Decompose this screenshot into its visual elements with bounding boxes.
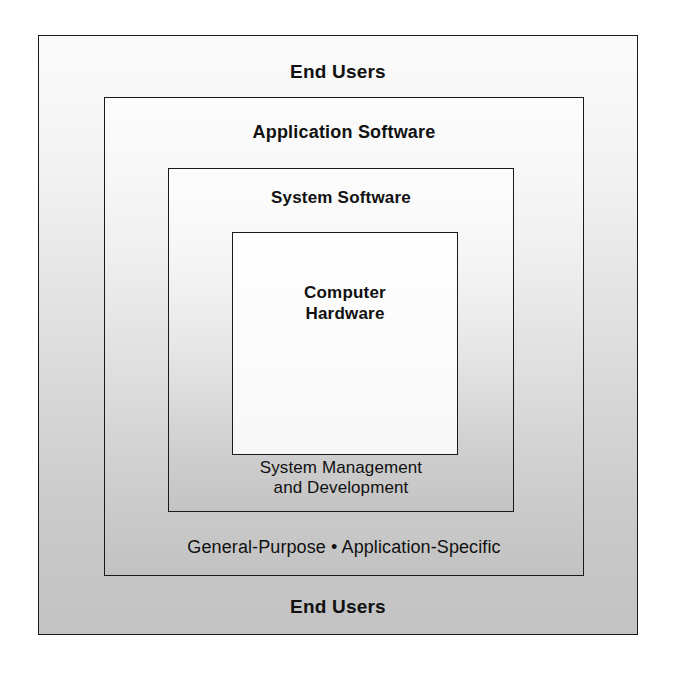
layer-system-software: System Software Computer Hardware System…	[168, 168, 514, 512]
layer-end-users: End Users Application Software System So…	[38, 35, 638, 635]
label-system-management-and-development: System Management and Development	[169, 458, 513, 499]
label-computer-hardware: Computer Hardware	[233, 283, 457, 324]
label-end-users-bottom: End Users	[39, 595, 637, 618]
label-general-purpose-application-specific: General-Purpose • Application-Specific	[105, 537, 583, 559]
label-application-software: Application Software	[105, 122, 583, 144]
label-end-users-top: End Users	[39, 60, 637, 83]
layer-application-software: Application Software System Software Com…	[104, 97, 584, 576]
layer-computer-hardware: Computer Hardware	[232, 232, 458, 455]
label-system-software: System Software	[169, 188, 513, 209]
diagram-canvas: End Users Application Software System So…	[0, 0, 676, 677]
